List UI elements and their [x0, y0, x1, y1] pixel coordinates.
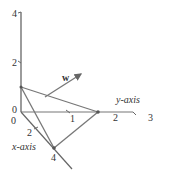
x-axis-label: x-axis: [11, 141, 36, 152]
y-tick-3: [133, 112, 136, 115]
origin-label-lower: 0: [11, 115, 16, 126]
z-tick-label-4: 4: [12, 8, 17, 19]
point-x: [52, 146, 56, 150]
point-z: [20, 86, 23, 89]
y-tick-label-1: 1: [70, 113, 75, 124]
point-y: [96, 110, 100, 114]
y-tick-label-2: 2: [113, 112, 118, 123]
x-tick-label-2: 2: [27, 127, 32, 138]
y-tick-label-3: 3: [148, 112, 153, 123]
vector-w-label: w: [62, 72, 70, 83]
z-tick-label-2: 2: [12, 57, 17, 68]
y-axis-label: y-axis: [115, 94, 140, 105]
3d-plane-diagram: 4 2 0 0 1 2 3 y-axis 2 4 x-axis w: [0, 0, 169, 177]
x-tick-label-4: 4: [51, 152, 56, 163]
origin-label-upper: 0: [12, 104, 17, 115]
plane-edge-xy: [54, 112, 98, 148]
